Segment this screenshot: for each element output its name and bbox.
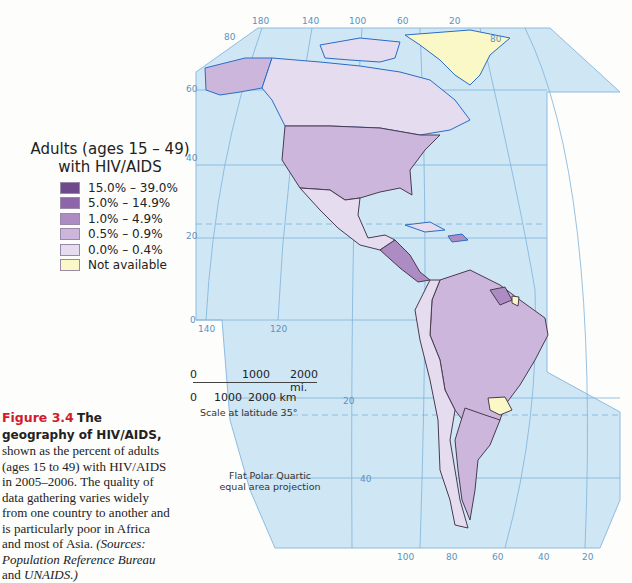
legend-subtitle: with HIV/AIDS [20,158,200,176]
lon-label: 20 [449,16,461,26]
lat-label: 80 [224,32,236,42]
legend: Adults (ages 15 – 49) with HIV/AIDS 15.0… [20,140,200,273]
scale-label: 1000 [214,391,242,404]
scale-label: 0 [190,368,197,381]
projection-note: Flat Polar Quartic equal area projection [210,470,330,492]
projection-line: Flat Polar Quartic [210,470,330,481]
legend-label: 1.0% – 4.9% [88,212,163,226]
lon-label: 80 [446,552,458,562]
lat-label: 40 [360,474,372,484]
scale-label: 0 [190,391,197,404]
legend-swatch [60,213,80,225]
scale-bar: 0 1000 2000 mi. 0 1000 2000 km Scale at … [190,368,330,418]
legend-label: 15.0% – 39.0% [88,181,178,195]
legend-swatch [60,228,80,240]
caption-source: and [2,567,24,582]
lon-label: 20 [582,552,594,562]
scale-line [193,382,317,391]
caption-source: Population Reference Bureau [2,552,156,567]
legend-label: 0.0% – 0.4% [88,243,163,257]
legend-swatch [60,197,80,209]
lat-label: 20 [343,396,355,406]
legend-label: 5.0% – 14.9% [88,196,170,210]
figure-caption: Figure 3.4 The geography of HIV/AIDS, sh… [2,410,172,583]
legend-label: Not available [88,258,167,272]
legend-swatch [60,182,80,194]
lat-label: 60 [186,84,198,94]
lon-label: 120 [270,324,287,334]
legend-item: Not available [60,258,200,274]
lon-label: 40 [538,552,550,562]
legend-item: 5.0% – 14.9% [60,196,200,212]
legend-item: 0.5% – 0.9% [60,227,200,243]
legend-item: 1.0% – 4.9% [60,211,200,227]
lon-label: 100 [397,552,414,562]
caption-body: shown as the percent of adults (ages 15 … [2,443,170,551]
scale-note: Scale at latitude 35° [200,407,330,418]
lon-label: 140 [198,324,215,334]
legend-item: 0.0% – 0.4% [60,242,200,258]
caption-source: (Sources: [96,536,145,551]
legend-item: 15.0% – 39.0% [60,180,200,196]
lon-label: 140 [302,16,319,26]
legend-swatch [60,244,80,256]
lon-label: 180 [252,16,269,26]
lat-label: 80 [490,34,502,44]
scale-label: 2000 km [248,391,297,404]
lon-label: 60 [492,552,504,562]
legend-title: Adults (ages 15 – 49) [20,140,200,158]
legend-label: 0.5% – 0.9% [88,227,163,241]
legend-swatch [60,259,80,271]
lon-label: 60 [397,16,409,26]
scale-label: 1000 [242,368,270,381]
caption-source: UNAIDS.) [24,567,78,582]
lat-label: 0 [190,315,196,325]
projection-line: equal area projection [210,481,330,492]
figure-number: Figure 3.4 [2,410,74,425]
lon-label: 100 [349,16,366,26]
